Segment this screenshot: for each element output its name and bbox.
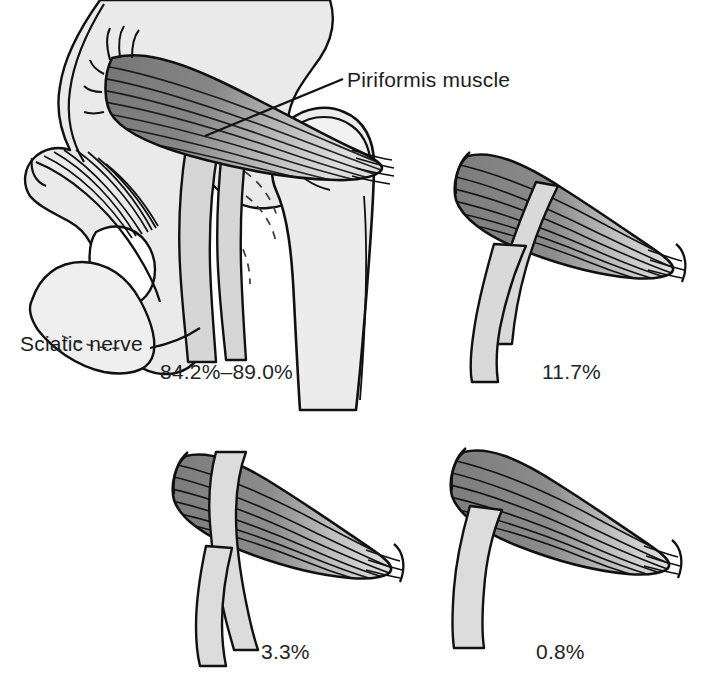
anatomy-figure: Piriformis muscle Sciatic nerve 84.2%–89… bbox=[0, 0, 701, 682]
panel-2-percentage: 11.7% bbox=[542, 360, 601, 384]
panel-4-percentage: 0.8% bbox=[536, 640, 585, 664]
sciatic-nerve-label: Sciatic nerve bbox=[20, 332, 143, 356]
piriformis-muscle-label: Piriformis muscle bbox=[347, 68, 510, 92]
panel-1-percentage: 84.2%–89.0% bbox=[160, 360, 293, 384]
panel-3-percentage: 3.3% bbox=[261, 640, 310, 664]
